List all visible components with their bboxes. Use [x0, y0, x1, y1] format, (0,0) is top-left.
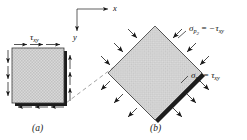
- sigma-p1-subsubscript: 1: [199, 78, 202, 83]
- sigma-p1-equals: =: [204, 70, 209, 80]
- principal-stress-diamond: [108, 26, 202, 120]
- sigma-p2-sign: −: [209, 23, 214, 33]
- sigma-p1-value-subscript: xy: [213, 74, 220, 81]
- y-axis-label: y: [72, 32, 77, 42]
- panel-a-group: τxy (a): [8, 32, 70, 134]
- coordinate-axes: x y: [72, 3, 117, 42]
- sigma-p2-subsubscript: 2: [197, 31, 200, 36]
- sigma-p1-label: σp1=τxy: [191, 70, 220, 83]
- pure-shear-square: [12, 48, 64, 103]
- x-axis-label: x: [112, 3, 117, 13]
- stress-transformation-figure: x y: [0, 0, 247, 140]
- tau-xy-label: τxy: [30, 32, 39, 43]
- sigma-p2-label: σp2=−τxy: [189, 23, 224, 36]
- panel-a-caption: (a): [32, 123, 43, 134]
- tau-subscript: xy: [32, 36, 39, 43]
- figure-canvas: x y: [0, 0, 247, 140]
- panel-b-caption: (b): [150, 123, 161, 134]
- sigma-p2-equals: =: [202, 23, 207, 33]
- sigma-p2-value-subscript: xy: [218, 27, 225, 34]
- panel-b-group: σp2=−τxy σp1=τxy (b): [101, 23, 224, 134]
